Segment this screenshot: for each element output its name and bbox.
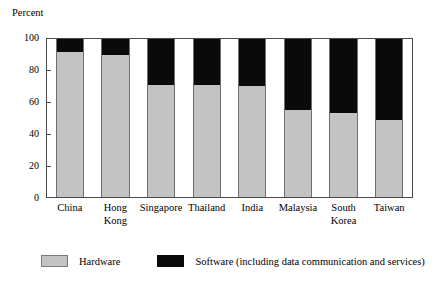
bar-slot [47, 39, 93, 197]
bar-segment-hardware [148, 85, 174, 197]
legend-entry-software: Software (including data communication a… [157, 255, 424, 267]
bar-segment-hardware [376, 120, 402, 197]
x-axis-label: Malaysia [275, 202, 321, 227]
legend-label-software: Software (including data communication a… [195, 256, 424, 267]
x-axis-label: Singapore [138, 202, 184, 227]
bar-segment-software [376, 39, 402, 120]
stacked-bar[interactable] [147, 39, 175, 197]
y-axis-title: Percent [12, 7, 44, 19]
bar-segment-hardware [57, 52, 83, 197]
bar-segment-software [148, 39, 174, 85]
x-axis-label: India [230, 202, 276, 227]
y-axis-tick-label: 100 [13, 33, 39, 43]
stacked-bar[interactable] [238, 39, 266, 197]
y-axis-tick-label: 0 [13, 193, 39, 203]
bar-segment-software [102, 39, 128, 55]
stacked-bar[interactable] [284, 39, 312, 197]
bar-segment-software [330, 39, 356, 113]
bar-segment-hardware [285, 110, 311, 197]
chart-legend: Hardware Software (including data commun… [0, 255, 434, 267]
x-axis-label: Taiwan [366, 202, 412, 227]
bar-slot [138, 39, 184, 197]
bar-slot [275, 39, 321, 197]
x-axis-label: Hong Kong [93, 202, 139, 227]
bar-segment-software [239, 39, 265, 86]
stacked-bar[interactable] [56, 39, 84, 197]
x-axis-label: South Korea [321, 202, 367, 227]
bar-segment-software [285, 39, 311, 110]
bars-container [47, 39, 412, 197]
stacked-bar-chart: Percent 020406080100 ChinaHong KongSinga… [0, 0, 434, 292]
bar-segment-hardware [239, 86, 265, 197]
x-axis-label: Thailand [184, 202, 230, 227]
stacked-bar[interactable] [101, 39, 129, 197]
bar-slot [321, 39, 367, 197]
x-axis-label: China [47, 202, 93, 227]
stacked-bar[interactable] [375, 39, 403, 197]
bar-segment-hardware [102, 55, 128, 197]
bar-slot [93, 39, 139, 197]
y-axis-tick-label: 80 [13, 65, 39, 75]
bar-slot [184, 39, 230, 197]
y-axis-tick-label: 40 [13, 129, 39, 139]
bar-segment-software [57, 39, 83, 52]
legend-swatch-software-icon [157, 255, 184, 267]
x-axis-labels: ChinaHong KongSingaporeThailandIndiaMala… [47, 202, 412, 227]
bar-segment-hardware [330, 113, 356, 197]
y-axis-tick-label: 60 [13, 97, 39, 107]
legend-swatch-hardware-icon [41, 255, 68, 267]
legend-entry-hardware: Hardware [41, 255, 120, 267]
bar-slot [366, 39, 412, 197]
bar-slot [230, 39, 276, 197]
bar-segment-software [194, 39, 220, 85]
legend-label-hardware: Hardware [79, 256, 120, 267]
bar-segment-hardware [194, 85, 220, 197]
y-axis-tick-label: 20 [13, 161, 39, 171]
stacked-bar[interactable] [329, 39, 357, 197]
stacked-bar[interactable] [193, 39, 221, 197]
